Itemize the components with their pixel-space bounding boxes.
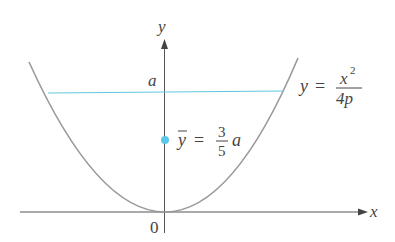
centroid-parabola-diagram: y x 0 a y = x 2 4p y = 3 5 a (0, 0, 395, 242)
x-axis-label: x (369, 202, 378, 221)
level-line (48, 91, 284, 93)
centroid-label-numerator: 3 (218, 124, 226, 140)
curve-label-exponent: 2 (350, 64, 356, 76)
centroid-label-denominator: 5 (218, 143, 226, 159)
curve-label-eq: = (315, 76, 325, 96)
curve-label-denominator: 4p (336, 89, 353, 108)
y-axis-arrow-icon (161, 39, 168, 49)
y-axis-label: y (156, 17, 166, 36)
centroid-label-suffix: a (232, 130, 241, 150)
origin-label: 0 (150, 218, 159, 237)
curve-label-numerator: x (339, 69, 348, 88)
centroid-label-eq: = (194, 130, 204, 150)
x-axis-arrow-icon (358, 209, 368, 216)
parabola-curve (29, 58, 298, 212)
centroid-label-lhs: y (176, 130, 186, 150)
centroid-dot (161, 136, 169, 144)
curve-label-lhs: y (298, 76, 308, 96)
level-label: a (148, 71, 157, 90)
